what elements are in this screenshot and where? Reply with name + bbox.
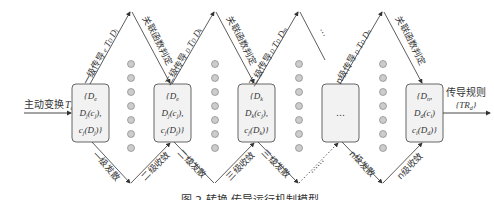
- output-symbol: {TRd}: [456, 100, 477, 111]
- svg-text:一级传导 e TD Dj: 一级传导 e TD Dj: [80, 26, 120, 87]
- svg-text:Dj(cj),: Dj(cj),: [78, 108, 101, 119]
- box-3: {Dk Dk(cj), cj(Dk)}: [238, 84, 275, 142]
- box-4: …: [322, 84, 359, 142]
- svg-text:关联函数判定: 关联函数判定: [225, 14, 260, 67]
- box-2: {De Dj(cj), cj(Dj)}: [154, 84, 191, 142]
- svg-text:n级传导 D TD Dn: n级传导 D TD Dn: [333, 27, 373, 86]
- box-5: {Dn, Dd(ci) ci(Dd)}: [406, 84, 443, 142]
- figure-caption: 图 2 转换-传导运行机制模型: [181, 193, 320, 200]
- svg-text:三级收敛: 三级收敛: [224, 149, 257, 183]
- svg-text:Dk(cj),: Dk(cj),: [244, 108, 268, 119]
- svg-text:cj(Dj)}: cj(Dj)}: [79, 125, 103, 136]
- svg-text:…: …: [318, 25, 331, 38]
- svg-text:n级收敛: n级收敛: [394, 150, 425, 181]
- svg-text:{Dn,: {Dn,: [417, 91, 432, 102]
- svg-text:三级发散: 三级发散: [260, 147, 293, 181]
- svg-text:cj(Dk)}: cj(Dk)}: [244, 125, 269, 136]
- svg-text:Dj(cj),: Dj(cj),: [160, 108, 183, 119]
- svg-text:Dd(ci): Dd(ci): [413, 108, 435, 119]
- svg-text:n级发散: n级发散: [347, 148, 378, 179]
- svg-text:ci(Dd)}: ci(Dd)}: [412, 125, 437, 136]
- svg-text:二级发散: 二级发散: [176, 147, 209, 181]
- conduction-diagram: 主动变换TeDi {De Dj(cj), cj(Dj)} {De Dj(cj),…: [0, 0, 494, 200]
- svg-text:cj(Dj)}: cj(Dj)}: [161, 125, 185, 136]
- box-1: {De Dj(cj), cj(Dj)}: [72, 84, 109, 142]
- svg-text:关联函数判定: 关联函数判定: [141, 14, 176, 67]
- svg-text:……: ……: [306, 155, 326, 175]
- svg-text:…: …: [336, 108, 345, 118]
- svg-text:二级收敛: 二级收敛: [139, 149, 172, 183]
- output-label: 传导规则: [446, 86, 486, 98]
- svg-text:一级发散: 一级发散: [90, 149, 123, 183]
- lower-labels: 一级发散 二级收敛 二级发散 三级收敛 三级发散 …… n级发散 n级收敛: [90, 147, 425, 183]
